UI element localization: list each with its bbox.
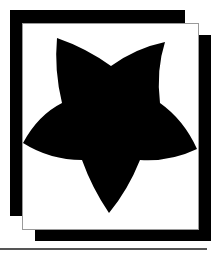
star-icon — [0, 0, 220, 257]
horizontal-rule — [0, 248, 207, 250]
